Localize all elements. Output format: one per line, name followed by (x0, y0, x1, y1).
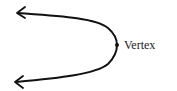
vertex-point (115, 43, 119, 47)
parabola-curve (16, 13, 117, 82)
vertex-label: Vertex (124, 38, 155, 52)
parabola-diagram: Vertex (0, 0, 177, 91)
